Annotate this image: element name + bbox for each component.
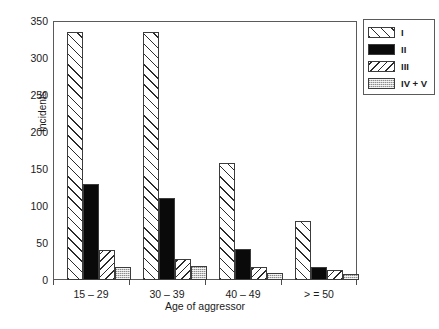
bar-II-cat0 (83, 184, 99, 280)
legend-swatch-icon (368, 78, 395, 89)
x-category-label: 30 – 39 (149, 288, 184, 300)
bar-I-cat2 (219, 163, 235, 280)
legend-label: I (401, 27, 404, 38)
bar-III-cat3 (327, 270, 343, 280)
legend-swatch-icon (368, 61, 395, 72)
x-category-label: 40 – 49 (225, 288, 260, 300)
x-category-label: > = 50 (304, 288, 334, 300)
bar-I-cat1 (143, 32, 159, 280)
bar-III-cat0 (99, 250, 115, 280)
y-tick-label: 350 (18, 16, 48, 26)
y-axis-tick-group: 050100150200250300350 (18, 0, 48, 329)
bar-III-cat1 (175, 259, 191, 280)
bar-II-cat1 (159, 198, 175, 280)
x-category-label: 15 – 29 (73, 288, 108, 300)
legend-box: IIIIIIIV + V (363, 19, 435, 95)
legend-label: II (401, 44, 406, 55)
x-tick-mark (53, 280, 54, 285)
bar-I-cat0 (67, 32, 83, 280)
bar-II-cat3 (311, 267, 327, 280)
y-tick-label: 50 (18, 238, 48, 248)
bar-IVV-cat0 (115, 267, 131, 280)
y-tick-label: 250 (18, 90, 48, 100)
y-tick-label: 200 (18, 127, 48, 137)
bar-chart-figure: Incidents 050100150200250300350 15 – 293… (0, 0, 439, 329)
bar-I-cat3 (295, 221, 311, 280)
legend-label: IV + V (401, 78, 427, 89)
bar-III-cat2 (251, 267, 267, 280)
y-tick-label: 300 (18, 53, 48, 63)
legend-swatch-icon (368, 44, 395, 55)
y-tick-label: 100 (18, 201, 48, 211)
bars-layer (53, 21, 357, 280)
legend-label: III (401, 61, 409, 72)
bar-II-cat2 (235, 249, 251, 280)
x-tick-mark (205, 280, 206, 285)
bar-IVV-cat2 (267, 273, 283, 280)
x-axis-title: Age of aggressor (53, 300, 357, 312)
x-tick-mark (356, 280, 357, 285)
x-tick-mark (281, 280, 282, 285)
legend-item-IVV[interactable]: IV + V (368, 76, 430, 91)
bar-IVV-cat1 (191, 266, 207, 280)
x-tick-mark (129, 280, 130, 285)
y-tick-label: 0 (18, 275, 48, 285)
legend-item-I[interactable]: I (368, 25, 430, 40)
legend-item-II[interactable]: II (368, 42, 430, 57)
legend-item-III[interactable]: III (368, 59, 430, 74)
legend-swatch-icon (368, 27, 395, 38)
y-tick-label: 150 (18, 164, 48, 174)
